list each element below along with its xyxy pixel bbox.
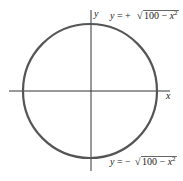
upper-equation: y = + √ 100 − x2	[109, 9, 179, 21]
lower-eq-prefix: = −	[114, 156, 131, 167]
svg-text:y = −: y = −	[109, 156, 131, 167]
svg-text:100 − x2: 100 − x2	[144, 9, 178, 21]
lower-equation: y = − √ 100 − x2	[109, 155, 177, 167]
circle-diagram: x y y = + √ 100 − x2 y = − √ 100 − x2	[0, 0, 183, 181]
y-axis-label: y	[93, 8, 99, 19]
upper-eq-prefix: = +	[114, 10, 131, 21]
x-axis-label: x	[165, 90, 171, 101]
lower-sqrt-symbol: √	[135, 156, 141, 167]
upper-sqrt-symbol: √	[137, 10, 143, 21]
svg-text:100 − x2: 100 − x2	[142, 155, 176, 167]
svg-text:y = +: y = +	[109, 10, 131, 21]
